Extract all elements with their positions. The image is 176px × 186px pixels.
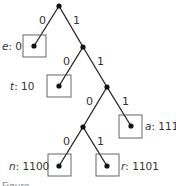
edge-label-n3-left: 0 <box>63 135 70 148</box>
leaf-label-t: t: 10 <box>10 80 34 92</box>
leaf-node-n <box>56 163 61 168</box>
edge-label-n1-left: 0 <box>63 55 70 68</box>
leaf-node-e <box>31 43 36 48</box>
leaf-label-n: n: 1100 <box>9 160 49 172</box>
edge-label-n2-left: 0 <box>86 95 93 108</box>
leaf-label-e: e: 0 <box>2 40 22 52</box>
internal-node-1 <box>80 44 85 49</box>
leaf-label-r: r: 1101 <box>121 160 159 172</box>
edge-label-root-right: 1 <box>73 14 80 27</box>
edge-label-n3-right: 1 <box>97 135 104 148</box>
root-node <box>56 3 61 8</box>
huffman-tree-diagram: 0 1 0 1 0 1 0 1 e: 0 t: 10 a: 111 n: 110… <box>0 0 176 186</box>
edge-label-root-left: 0 <box>39 14 46 27</box>
edge-label-n1-right: 1 <box>97 55 104 68</box>
leaf-label-a: a: 111 <box>145 120 176 132</box>
leaf-node-a <box>128 123 133 128</box>
figure-caption: Figure <box>2 181 30 186</box>
leaf-node-t <box>56 83 61 88</box>
edge-label-n2-right: 1 <box>122 95 129 108</box>
edge-root-e <box>34 6 59 46</box>
internal-node-11 <box>104 84 109 89</box>
leaf-node-r <box>104 163 109 168</box>
internal-node-110 <box>80 124 85 129</box>
